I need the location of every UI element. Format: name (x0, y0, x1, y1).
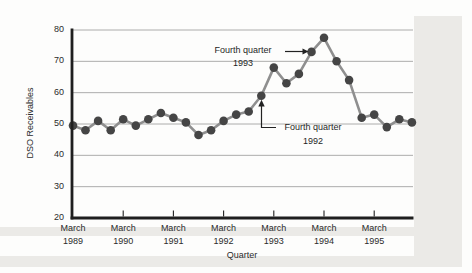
y-tick-label-50: 50 (30, 119, 64, 128)
data-point (257, 92, 266, 101)
annotation-fourth-quarter-1992: Fourth quarter1992 (277, 121, 349, 148)
data-point (106, 126, 115, 135)
data-point (244, 107, 253, 116)
y-tick-label-30: 30 (30, 182, 64, 191)
data-point (395, 115, 404, 124)
data-point (119, 115, 128, 124)
data-point (219, 117, 228, 126)
x-axis-title: Quarter (227, 251, 258, 260)
data-point (94, 117, 103, 126)
data-point (169, 113, 178, 122)
data-point (345, 76, 354, 85)
x-axis-ticks (123, 211, 374, 217)
y-tick-label-80: 80 (30, 25, 64, 34)
data-point (357, 113, 366, 122)
x-tick-label-1994: March1994 (299, 222, 349, 248)
data-point (408, 118, 417, 127)
x-tick-label-1995: March1995 (349, 222, 399, 248)
data-point (132, 121, 141, 130)
data-point (320, 34, 329, 43)
y-tick-label-20: 20 (30, 213, 64, 222)
data-point (282, 79, 291, 88)
annotation-arrow-1992 (258, 100, 276, 128)
data-point (383, 123, 392, 132)
y-tick-label-70: 70 (30, 56, 64, 65)
y-tick-label-40: 40 (30, 150, 64, 159)
data-point (332, 57, 341, 66)
x-tick-label-1993: March1993 (249, 222, 299, 248)
data-point (157, 109, 166, 118)
annotation-fourth-quarter-1993: Fourth quarter1993 (197, 44, 289, 70)
data-point (81, 126, 90, 135)
y-axis-title: DSO Receivables (26, 87, 35, 158)
chart-figure: 80 70 60 50 40 30 20 March1989 March1990… (0, 0, 472, 273)
x-tick-label-1989: March1989 (48, 222, 98, 248)
data-point (207, 126, 216, 135)
data-point (307, 48, 316, 57)
data-point (182, 118, 191, 127)
x-tick-label-1990: March1990 (98, 222, 148, 248)
data-point (194, 131, 203, 140)
data-point (295, 70, 304, 79)
data-point (370, 110, 379, 119)
x-tick-label-1992: March1992 (199, 222, 249, 248)
data-point (232, 110, 241, 119)
data-point (144, 115, 153, 124)
y-tick-label-60: 60 (30, 88, 64, 97)
x-tick-label-1991: March1991 (148, 222, 198, 248)
